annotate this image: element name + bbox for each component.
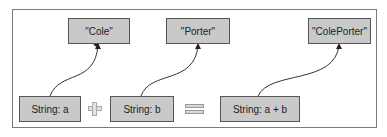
variable-label: String: b bbox=[123, 104, 160, 115]
arrow-ab-to-coleporter bbox=[258, 45, 339, 96]
variable-box-a: String: a bbox=[19, 96, 81, 122]
variable-box-b: String: b bbox=[110, 96, 174, 122]
variable-label: String: a bbox=[31, 104, 68, 115]
value-label: "ColePorter" bbox=[312, 26, 367, 37]
value-box-cole: "Cole" bbox=[68, 18, 130, 44]
arrow-a-to-cole bbox=[50, 45, 98, 96]
variable-label: String: a + b bbox=[233, 104, 287, 115]
plus-icon bbox=[88, 102, 102, 116]
arrow-b-to-porter bbox=[141, 45, 198, 96]
variable-box-a-plus-b: String: a + b bbox=[220, 96, 300, 122]
value-box-porter: "Porter" bbox=[166, 18, 230, 44]
value-label: "Cole" bbox=[85, 26, 113, 37]
value-box-coleporter: "ColePorter" bbox=[308, 18, 371, 44]
value-label: "Porter" bbox=[181, 26, 215, 37]
